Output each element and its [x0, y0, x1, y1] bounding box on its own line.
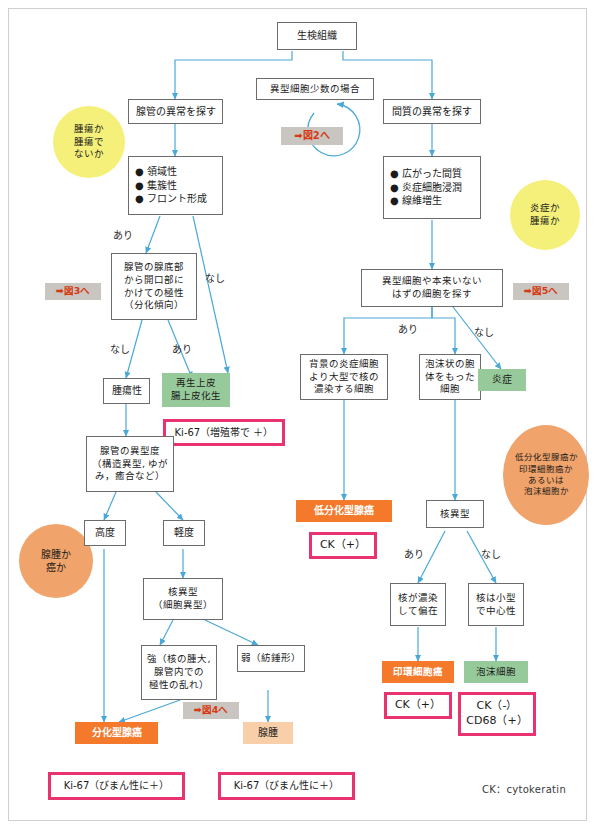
marker-ki67-diffuse-left: Ki-67（びまん性に＋） [48, 772, 185, 800]
node-nuclear-atypia-left: 核異型 （細胞異型） [143, 578, 223, 620]
marker-ck-positive-signet: CK（+） [384, 692, 452, 719]
link-to-figure-5[interactable]: ➡図5へ [513, 283, 569, 300]
legend-ck-abbreviation: CK：cytokeratin [482, 781, 566, 796]
node-large-hyperchromatic-cells: 背景の炎症細胞 より大型で核の 濃染する細胞 [300, 354, 388, 400]
marker-ck-positive-poorly: CK（+） [309, 532, 377, 559]
marker-ki67-diffuse-right: Ki-67（びまん性に＋） [218, 772, 355, 800]
node-signet-ring-cell-carcinoma: 印環細胞癌 [382, 661, 454, 683]
circle-adenoma-or-cancer: 腺腫か 癌か [19, 524, 93, 598]
node-gland-search: 腺管の異常を探す [128, 99, 223, 124]
node-differentiated-adenocarcinoma: 分化型腺癌 [75, 722, 158, 744]
node-foamy-cytoplasm-cells: 泡沫状の胞 体をもった 細胞 [419, 354, 481, 400]
edge-label-nashi-polarity: なし [110, 341, 130, 356]
node-high-grade: 高度 [84, 520, 126, 546]
link-to-figure-4[interactable]: ➡図4へ [183, 702, 239, 719]
node-stroma-features: ● 広がった間質 ● 炎症細胞浸潤 ● 線維増生 [383, 156, 481, 219]
node-regenerative-epithelium: 再生上皮 腸上皮化生 [162, 373, 230, 407]
node-poorly-differentiated-adenocarcinoma: 低分化型腺癌 [296, 500, 392, 522]
node-low-grade: 軽度 [163, 520, 205, 546]
node-gland-features: ● 領域性 ● 集簇性 ● フロント形成 [128, 156, 223, 215]
edge-label-nashi-gland: なし [205, 270, 225, 285]
marker-ck-negative-cd68: CK（-） CD68（+） [458, 692, 536, 736]
node-inflammation: 炎症 [478, 369, 526, 391]
link-to-figure-2[interactable]: ➡図2へ [281, 127, 343, 145]
node-atypical-cell-search: 異型細胞や本来いない はずの細胞を探す [361, 269, 503, 307]
node-neoplastic: 腫瘍性 [103, 378, 150, 404]
edge-label-nashi-atypical: なし [474, 324, 494, 339]
node-dark-eccentric-nucleus: 核が濃染 して偏在 [390, 583, 446, 626]
circle-inflammation-or-tumor: 炎症か 腫瘍か [510, 180, 580, 250]
edge-label-ari-gland: あり [113, 227, 133, 242]
circle-poorly-or-signet: 低分化型腺癌か 印環細胞癌か あるいは 泡沫細胞か [503, 425, 589, 525]
node-few-atypical-cells: 異型細胞少数の場合 [256, 78, 374, 100]
edge-label-ari-polarity: あり [172, 341, 192, 356]
edge-label-ari-nuclear: あり [404, 546, 424, 561]
node-stroma-search: 間質の異常を探す [383, 99, 481, 124]
circle-tumor-or-not: 腫瘍か 腫瘍で ないか [53, 106, 125, 178]
edge-label-nashi-nuclear: なし [481, 546, 501, 561]
node-biopsy: 生検組織 [277, 22, 357, 50]
edge-label-ari-atypical: あり [398, 321, 418, 336]
node-gland-atypia-degree: 腺管の異型度 （構造異型, ゆが み，癒合など） [86, 436, 174, 492]
node-atypia-strong: 強（核の腫大, 腺管内での 極性の乱れ） [141, 645, 217, 700]
marker-ki67-proliferative: Ki-67（増殖帯で ＋） [163, 419, 285, 446]
diagram-page: 生検組織 腺管の異常を探す ● 領域性 ● 集簇性 ● フロント形成 異型細胞少… [0, 0, 599, 833]
node-nuclear-atypia-right: 核異型 [426, 500, 484, 528]
node-atypia-weak: 弱（紡錘形） [237, 645, 305, 672]
node-adenoma: 腺腫 [243, 722, 293, 744]
node-gland-polarity: 腺管の腺底部 から開口部に かけての極性 （分化傾向） [111, 253, 197, 320]
link-to-figure-3[interactable]: ➡図3へ [45, 283, 101, 300]
node-foamy-cell: 泡沫細胞 [464, 661, 528, 683]
node-small-central-nucleus: 核は小型 で中心性 [468, 583, 524, 626]
